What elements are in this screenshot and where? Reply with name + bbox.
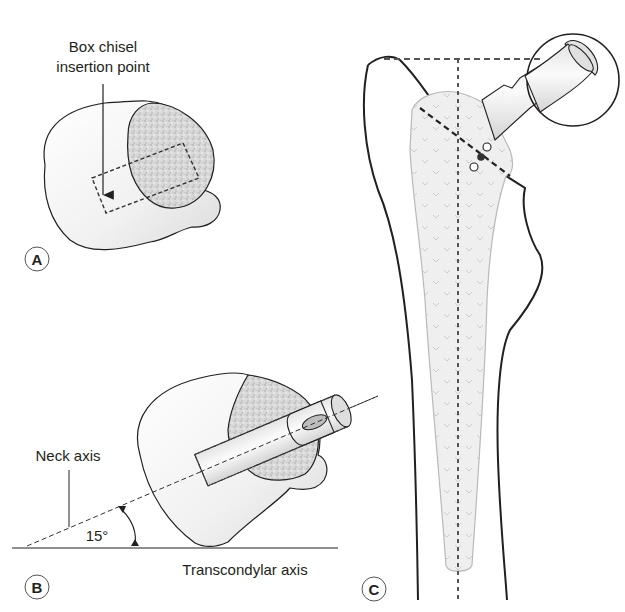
angle-arc [122, 510, 135, 546]
marker-open-upper [483, 143, 491, 151]
bone-outline-right [498, 176, 543, 600]
panel-b-label: B [32, 579, 43, 596]
marker-open-lower [470, 163, 478, 171]
label-box-chisel-line2: insertion point [56, 58, 150, 75]
label-angle: 15° [86, 527, 109, 544]
panel-a: Box chisel insertion point A [25, 38, 220, 271]
panel-a-label: A [32, 251, 43, 268]
label-box-chisel-line1: Box chisel [69, 38, 137, 55]
panel-b: Neck axis 15° Transcondylar axis B [12, 373, 378, 599]
angle-arrowhead-top [118, 506, 126, 513]
panel-c: C [362, 34, 619, 601]
angle-arrowhead-bottom [131, 539, 139, 546]
implant-stem [410, 92, 513, 572]
figure-canvas: Box chisel insertion point A Neck axis 1… [0, 0, 625, 612]
marker-filled-center [477, 153, 485, 161]
panel-c-label: C [369, 581, 380, 598]
label-neck-axis: Neck axis [35, 447, 100, 464]
label-transcondylar-axis: Transcondylar axis [182, 561, 307, 578]
